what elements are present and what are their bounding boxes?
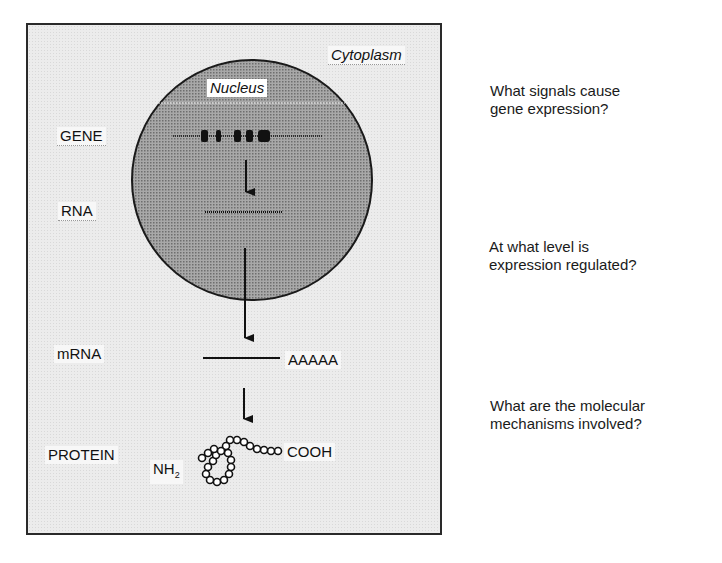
question-line: What are the molecular: [490, 397, 720, 415]
cytoplasm-label: Cytoplasm: [328, 46, 405, 65]
question-line: mechanisms involved?: [490, 415, 720, 433]
c-terminus-label: COOH: [284, 443, 335, 461]
question-regulation-level: At what level is expression regulated?: [489, 238, 719, 274]
question-line: What signals cause: [490, 82, 720, 100]
polya-tail-label: AAAAA: [285, 351, 341, 369]
protein-label: PROTEIN: [45, 446, 118, 464]
rna-label: RNA: [58, 202, 96, 221]
n-terminus-text: NH: [153, 460, 175, 477]
question-line: expression regulated?: [489, 256, 719, 274]
n-terminus-subscript: 2: [175, 470, 180, 480]
question-mechanisms: What are the molecular mechanisms involv…: [490, 397, 720, 433]
protein-chain-icon: [199, 437, 282, 486]
question-line: At what level is: [489, 238, 719, 256]
question-signals: What signals cause gene expression?: [490, 82, 720, 118]
nucleus-label: Nucleus: [207, 79, 267, 97]
mrna-label: mRNA: [54, 345, 104, 363]
gene-label: GENE: [57, 127, 106, 146]
n-terminus-label: NH2: [150, 460, 183, 484]
question-line: gene expression?: [490, 100, 720, 118]
